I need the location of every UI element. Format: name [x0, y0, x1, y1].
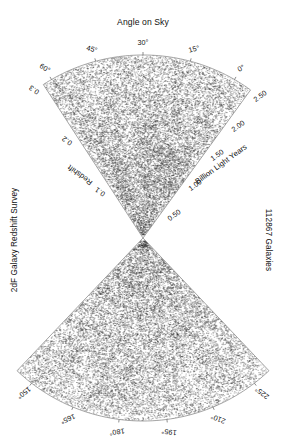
galaxy-points-bottom-wedge	[18, 241, 266, 421]
galaxy-points-top-wedge	[45, 55, 249, 235]
galaxy-count-caption: 112867 Galaxies	[264, 209, 273, 271]
survey-caption: 2dF Galaxy Redshift Survey	[10, 188, 19, 293]
cone-diagram-figure: Angle on Sky 2dF Galaxy Redshift Survey …	[0, 0, 286, 447]
angle-tick-30: 30°	[137, 38, 148, 47]
page-title: Angle on Sky	[117, 17, 169, 27]
